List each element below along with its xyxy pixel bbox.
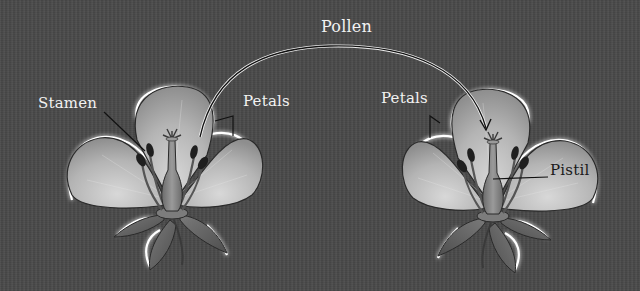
- petals-right-label: Petals: [381, 91, 428, 106]
- petals-left-label: Petals: [243, 94, 290, 109]
- stamen-label: Stamen: [38, 96, 97, 111]
- source-flower: [67, 86, 262, 270]
- pollination-diagram: [0, 0, 640, 291]
- pollen-label: Pollen: [321, 19, 372, 35]
- petals-right-leader-line: [430, 116, 440, 138]
- pistil-label: Pistil: [550, 163, 589, 178]
